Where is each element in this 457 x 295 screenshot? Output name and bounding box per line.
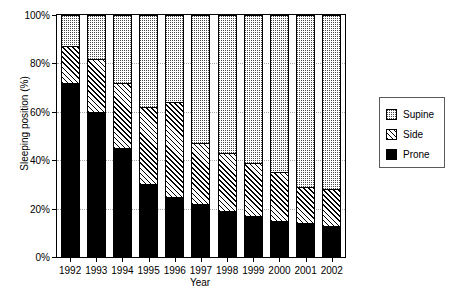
stacked-bar	[322, 15, 341, 257]
legend-swatch-prone-icon	[386, 149, 397, 160]
bar-segment-supine	[270, 15, 289, 172]
stacked-bar	[87, 15, 106, 257]
x-axis-tick	[253, 257, 254, 262]
chart-legend: Supine Side Prone	[379, 97, 445, 168]
bar-segment-supine	[218, 15, 237, 153]
x-axis-tick-label: 1995	[137, 265, 159, 276]
y-axis-tick-label: 80%	[10, 58, 50, 69]
stacked-bar	[165, 15, 184, 257]
x-axis-tick	[122, 257, 123, 262]
x-axis-tick-label: 1999	[242, 265, 264, 276]
x-axis-tick-label: 1997	[190, 265, 212, 276]
x-axis-tick-label: 1996	[164, 265, 186, 276]
bar-segment-prone	[139, 184, 158, 257]
x-axis-tick-label: 2000	[268, 265, 290, 276]
bar-segment-supine	[296, 15, 315, 187]
bar-segment-prone	[113, 148, 132, 257]
legend-item-side: Side	[386, 124, 444, 144]
bar-segment-prone	[244, 216, 263, 257]
x-axis-tick-label: 1993	[85, 265, 107, 276]
bar-segment-side	[61, 46, 80, 82]
legend-swatch-supine-icon	[386, 109, 397, 120]
stacked-bar	[218, 15, 237, 257]
x-axis-tick-label: 2001	[295, 265, 317, 276]
x-axis-tick-label: 1998	[216, 265, 238, 276]
legend-label-side: Side	[403, 129, 423, 140]
x-axis-title: Year	[56, 277, 344, 288]
stacked-bar	[244, 15, 263, 257]
y-axis-tick	[52, 257, 57, 258]
y-axis-tick-label: 100%	[10, 10, 50, 21]
bar-series-group	[57, 15, 345, 257]
bar-segment-side	[139, 107, 158, 184]
x-axis-tick	[201, 257, 202, 262]
x-axis-tick	[96, 257, 97, 262]
x-axis-tick	[279, 257, 280, 262]
bar-segment-prone	[322, 226, 341, 257]
bar-segment-side	[296, 187, 315, 223]
bar-segment-side	[191, 143, 210, 204]
y-axis-tick-label: 60%	[10, 106, 50, 117]
y-axis-tick-label: 20%	[10, 203, 50, 214]
bar-segment-supine	[244, 15, 263, 163]
bar-segment-supine	[165, 15, 184, 102]
legend-label-prone: Prone	[403, 149, 430, 160]
bar-segment-prone	[270, 221, 289, 257]
bar-segment-prone	[296, 223, 315, 257]
bar-segment-supine	[113, 15, 132, 83]
x-axis-tick	[149, 257, 150, 262]
bar-segment-supine	[61, 15, 80, 46]
stacked-bar	[191, 15, 210, 257]
x-axis-tick-label: 1994	[111, 265, 133, 276]
bar-segment-prone	[87, 112, 106, 257]
bar-segment-side	[87, 59, 106, 112]
x-axis-tick-label: 2002	[321, 265, 343, 276]
bar-segment-side	[113, 83, 132, 148]
bar-segment-side	[165, 102, 184, 196]
bar-segment-prone	[218, 211, 237, 257]
bar-segment-side	[218, 153, 237, 211]
stacked-bar	[270, 15, 289, 257]
x-axis-tick	[306, 257, 307, 262]
bar-segment-prone	[191, 204, 210, 257]
x-axis-tick	[175, 257, 176, 262]
bar-segment-prone	[165, 197, 184, 258]
bar-segment-supine	[322, 15, 341, 189]
x-axis-tick	[332, 257, 333, 262]
legend-item-prone: Prone	[386, 144, 444, 164]
bar-segment-side	[244, 163, 263, 216]
legend-item-supine: Supine	[386, 104, 444, 124]
legend-swatch-side-icon	[386, 129, 397, 140]
bar-segment-side	[270, 172, 289, 220]
x-axis-tick	[70, 257, 71, 262]
x-axis-tick-label: 1992	[59, 265, 81, 276]
x-axis-tick	[227, 257, 228, 262]
bar-segment-supine	[139, 15, 158, 107]
y-axis-tick-label: 40%	[10, 155, 50, 166]
stacked-bar	[113, 15, 132, 257]
bar-segment-side	[322, 189, 341, 225]
legend-label-supine: Supine	[403, 109, 434, 120]
stacked-bar	[139, 15, 158, 257]
y-axis-tick-label: 0%	[10, 252, 50, 263]
bar-segment-prone	[61, 83, 80, 257]
chart-figure: Sleeping position (%) 0%20%40%60%80%100%…	[0, 0, 457, 295]
bar-segment-supine	[191, 15, 210, 143]
stacked-bar	[296, 15, 315, 257]
stacked-bar	[61, 15, 80, 257]
plot-area: 0%20%40%60%80%100% 199219931994199519961…	[56, 14, 346, 258]
bar-segment-supine	[87, 15, 106, 59]
